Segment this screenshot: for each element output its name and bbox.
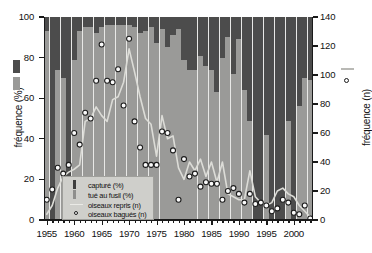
line-swatch-icon	[341, 68, 354, 70]
marker-oiseaux-bagues	[94, 78, 99, 83]
x-tick-minor	[233, 220, 234, 223]
x-tick-major	[294, 220, 295, 225]
y-tick-label-right: 40	[320, 156, 350, 167]
chart-legend: capturé (%) tué au fusil (%) oiseaux rep…	[62, 176, 154, 220]
x-tick-minor	[310, 220, 311, 223]
marker-oiseaux-bagues	[66, 162, 71, 167]
marker-oiseaux-bagues	[99, 42, 104, 47]
y-tick-left	[39, 16, 44, 17]
y-tick-label-right: 20	[320, 185, 350, 196]
y-tick-label-right: 140	[320, 11, 350, 22]
x-tick-minor	[151, 220, 152, 223]
marker-oiseaux-bagues	[132, 119, 137, 124]
x-tick-major	[74, 220, 75, 225]
marker-oiseaux-bagues	[236, 191, 241, 196]
x-tick-minor	[272, 220, 273, 223]
y-tick-right	[313, 103, 318, 104]
marker-oiseaux-bagues	[198, 184, 203, 189]
y-tick-left	[39, 57, 44, 58]
x-tick-minor	[91, 220, 92, 223]
y-tick-right	[313, 16, 318, 17]
x-tick-major	[239, 220, 240, 225]
x-tick-minor	[217, 220, 218, 223]
x-tick-minor	[228, 220, 229, 223]
x-tick-major	[129, 220, 130, 225]
y-tick-label-left: 20	[2, 173, 34, 184]
marker-oiseaux-bagues	[181, 157, 186, 162]
y-tick-left	[39, 98, 44, 99]
marker-oiseaux-bagues	[231, 186, 236, 191]
y-tick-label-right: 120	[320, 40, 350, 51]
y-tick-right	[313, 190, 318, 191]
x-tick-minor	[250, 220, 251, 223]
x-tick-major	[184, 220, 185, 225]
marker-oiseaux-bagues	[88, 116, 93, 121]
marker-oiseaux-bagues	[225, 189, 230, 194]
x-tick-major	[47, 220, 48, 225]
x-tick-minor	[146, 220, 147, 223]
marker-oiseaux-bagues	[154, 162, 159, 167]
y-tick-label-left: 100	[2, 11, 34, 22]
x-tick-minor	[69, 220, 70, 223]
x-tick-label: 2000	[277, 228, 311, 239]
x-tick-minor	[168, 220, 169, 223]
marker-oiseaux-bagues	[44, 197, 49, 202]
marker-oiseaux-bagues	[203, 180, 208, 185]
x-tick-minor	[244, 220, 245, 223]
marker-oiseaux-bagues	[105, 78, 110, 83]
y-tick-right	[313, 45, 318, 46]
x-tick-minor	[135, 220, 136, 223]
x-tick-minor	[277, 220, 278, 223]
y-tick-right	[313, 161, 318, 162]
marker-oiseaux-bagues	[297, 212, 302, 217]
marker-oiseaux-bagues	[258, 200, 263, 205]
circle-swatch-icon	[344, 78, 349, 83]
x-tick-minor	[96, 220, 97, 223]
marker-oiseaux-bagues	[220, 197, 225, 202]
marker-oiseaux-bagues	[253, 202, 258, 207]
x-tick-minor	[162, 220, 163, 223]
x-tick-minor	[288, 220, 289, 223]
marker-oiseaux-bagues	[138, 145, 143, 150]
x-tick-major	[157, 220, 158, 225]
x-tick-minor	[63, 220, 64, 223]
y-tick-label-right: 80	[320, 98, 350, 109]
y-tick-left	[39, 179, 44, 180]
x-tick-minor	[113, 220, 114, 223]
x-tick-minor	[58, 220, 59, 223]
marker-oiseaux-bagues	[176, 197, 181, 202]
grey-bar-swatch-icon	[73, 190, 76, 199]
x-tick-minor	[80, 220, 81, 223]
marker-oiseaux-bagues	[160, 129, 165, 134]
marker-oiseaux-bagues	[149, 162, 154, 167]
marker-oiseaux-bagues	[165, 131, 170, 136]
y-tick-right	[313, 74, 318, 75]
x-tick-minor	[255, 220, 256, 223]
captured-swatch-icon	[13, 60, 20, 73]
x-tick-major	[102, 220, 103, 225]
x-tick-minor	[85, 220, 86, 223]
y-tick-left	[39, 138, 44, 139]
marker-oiseaux-bagues	[286, 200, 291, 205]
marker-oiseaux-bagues	[264, 203, 269, 208]
x-tick-minor	[173, 220, 174, 223]
y-tick-left	[39, 219, 44, 220]
marker-oiseaux-bagues	[302, 203, 307, 208]
x-tick-minor	[118, 220, 119, 223]
dark-bar-swatch-icon	[73, 180, 76, 189]
x-tick-minor	[261, 220, 262, 223]
marker-oiseaux-bagues	[127, 36, 132, 41]
x-tick-major	[266, 220, 267, 225]
marker-oiseaux-bagues	[110, 80, 115, 85]
marker-oiseaux-bagues	[116, 67, 121, 72]
y-tick-right	[313, 132, 318, 133]
line-swatch-icon	[70, 204, 83, 205]
x-tick-minor	[52, 220, 53, 223]
x-tick-minor	[140, 220, 141, 223]
marker-oiseaux-bagues	[242, 200, 247, 205]
marker-oiseaux-bagues	[55, 165, 60, 170]
marker-oiseaux-bagues	[121, 103, 126, 108]
marker-oiseaux-bagues	[214, 181, 219, 186]
marker-oiseaux-bagues	[247, 191, 252, 196]
marker-oiseaux-bagues	[72, 131, 77, 136]
